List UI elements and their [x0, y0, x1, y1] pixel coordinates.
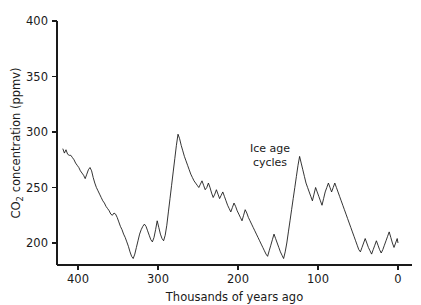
chart-canvas: 200250300350400 4003002001000 Ice agecyc…: [0, 0, 421, 305]
co2-chart-figure: 200250300350400 4003002001000 Ice agecyc…: [0, 0, 421, 305]
x-tick-label: 0: [394, 272, 401, 286]
x-tick-labels: 4003002001000: [67, 272, 402, 286]
y-axis-title: CO2 concentration (ppmv): [9, 67, 25, 218]
y-tick-label: 300: [26, 125, 48, 139]
chart-annotations: Ice agecycles: [250, 142, 290, 169]
annotation-line: Ice age: [250, 142, 290, 155]
axis-ticks: [52, 21, 398, 270]
axis-titles: Thousands of years agoCO2 concentration …: [9, 67, 303, 304]
y-tick-label: 200: [26, 236, 48, 250]
x-tick-label: 100: [307, 272, 329, 286]
y-tick-label: 350: [26, 70, 48, 84]
y-axis-title-suffix: concentration (ppmv): [9, 67, 23, 196]
x-tick-label: 400: [67, 272, 89, 286]
y-axis-title-prefix: CO: [9, 201, 23, 218]
data-series-group: [63, 134, 398, 258]
x-tick-label: 300: [147, 272, 169, 286]
y-tick-labels: 200250300350400: [26, 14, 48, 250]
annotation-line: cycles: [253, 156, 287, 169]
y-tick-label: 250: [26, 181, 48, 195]
y-tick-label: 400: [26, 14, 48, 28]
axes: [57, 21, 412, 265]
x-tick-label: 200: [227, 272, 249, 286]
co2-data-line: [63, 134, 398, 258]
x-axis-title: Thousands of years ago: [165, 290, 303, 304]
ice-age-cycles-annotation: Ice agecycles: [250, 142, 290, 169]
